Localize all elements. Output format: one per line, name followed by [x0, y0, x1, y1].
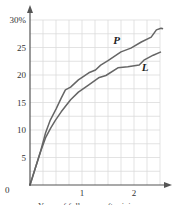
- x-tick-label: 2: [132, 188, 137, 198]
- series-lines: [30, 28, 163, 185]
- y-axis-arrow-icon: [27, 5, 33, 13]
- x-tick-label: 1: [80, 188, 85, 198]
- x-tick-labels: 12: [80, 188, 137, 198]
- y-tick-label: 30%: [10, 15, 27, 25]
- y-tick-label: 5: [22, 153, 27, 163]
- y-tick-label: 15: [17, 98, 27, 108]
- y-tick-label: 25: [17, 43, 27, 53]
- origin-label: 0: [5, 185, 10, 195]
- series-line-p: [30, 28, 163, 185]
- line-chart: 51015202530% 12 0 PL Years of follow-up …: [0, 0, 182, 205]
- series-label-l: L: [141, 61, 149, 73]
- x-axis-arrow-icon: [164, 182, 172, 188]
- grid-lines: [30, 20, 160, 185]
- y-tick-label: 10: [17, 125, 27, 135]
- axes: [27, 5, 172, 188]
- y-tick-labels: 51015202530%: [10, 15, 27, 163]
- y-tick-label: 20: [17, 70, 27, 80]
- x-axis-label: Years of follow-up after injury: [38, 201, 143, 205]
- series-label-p: P: [113, 34, 120, 46]
